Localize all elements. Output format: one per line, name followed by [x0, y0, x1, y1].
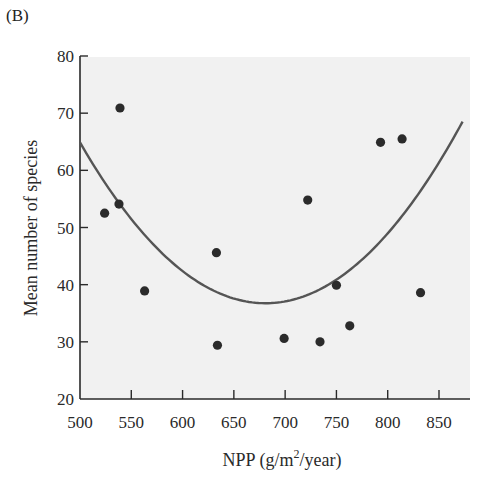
- data-point: [115, 103, 124, 112]
- y-tick-label: 40: [57, 276, 74, 295]
- data-point: [100, 209, 109, 218]
- data-point: [280, 334, 289, 343]
- data-point: [315, 337, 324, 346]
- x-tick-label: 550: [119, 413, 145, 432]
- y-tick-label: 80: [57, 47, 74, 66]
- y-axis-title: Mean number of species: [21, 140, 41, 316]
- y-tick-label: 70: [57, 104, 74, 123]
- x-tick-label: 750: [324, 413, 350, 432]
- data-point: [303, 195, 312, 204]
- data-point: [416, 288, 425, 297]
- data-point: [345, 321, 354, 330]
- x-tick-label: 500: [67, 413, 93, 432]
- x-tick-label: 600: [170, 413, 196, 432]
- data-point: [140, 286, 149, 295]
- y-tick-label: 30: [57, 333, 74, 352]
- data-point: [332, 281, 341, 290]
- y-tick-label: 20: [57, 390, 74, 409]
- x-tick-label: 700: [272, 413, 298, 432]
- x-tick-label: 650: [221, 413, 247, 432]
- data-point: [212, 248, 221, 257]
- y-tick-label: 60: [57, 161, 74, 180]
- data-point: [213, 341, 222, 350]
- x-axis-title: NPP (g/m2/year): [223, 447, 342, 471]
- y-tick-label: 50: [57, 219, 74, 238]
- x-tick-label: 800: [375, 413, 401, 432]
- scatter-chart: 20304050607080 500550600650700750800850 …: [0, 0, 489, 480]
- data-point: [397, 134, 406, 143]
- data-point: [114, 199, 123, 208]
- data-point: [376, 138, 385, 147]
- x-tick-label: 850: [426, 413, 452, 432]
